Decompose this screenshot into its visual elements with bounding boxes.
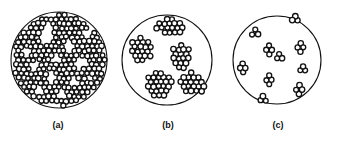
panel-a: (a) xyxy=(2,0,114,145)
panel-b-diagram xyxy=(112,0,224,120)
panel-c-label: (c) xyxy=(222,120,334,130)
panel-c-diagram xyxy=(222,0,334,120)
panel-a-diagram xyxy=(2,0,114,120)
panel-c: (c) xyxy=(222,0,334,145)
figure-container: (a) (b) (c) xyxy=(0,0,337,145)
panel-b: (b) xyxy=(112,0,224,145)
cluster-1 xyxy=(289,13,300,22)
panel-a-label: (a) xyxy=(2,120,114,130)
panel-b-label: (b) xyxy=(112,120,224,130)
